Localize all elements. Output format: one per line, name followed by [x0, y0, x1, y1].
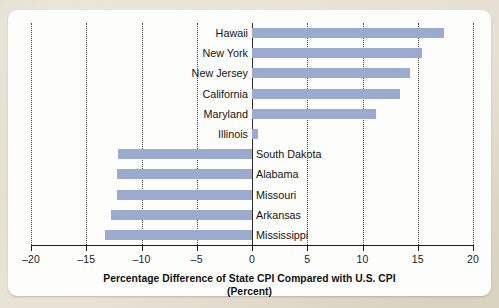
axis-tick	[473, 245, 474, 251]
bar-row[interactable]: Missouri	[31, 184, 473, 204]
category-label: South Dakota	[256, 146, 321, 162]
bar-row[interactable]: South Dakota	[31, 144, 473, 164]
bar[interactable]	[111, 210, 252, 220]
bar-chart: HawaiiNew YorkNew JerseyCaliforniaMaryla…	[8, 10, 491, 296]
axis-tick	[363, 245, 364, 251]
x-tick-label: –15	[77, 253, 95, 265]
axis-tick	[418, 245, 419, 251]
bar[interactable]	[252, 89, 400, 99]
bar[interactable]	[252, 109, 376, 119]
category-label: California	[202, 86, 248, 102]
bar-row[interactable]: New York	[31, 43, 473, 63]
bar[interactable]	[252, 129, 258, 139]
bar-row[interactable]: New Jersey	[31, 63, 473, 83]
plot-area: HawaiiNew YorkNew JerseyCaliforniaMaryla…	[31, 23, 473, 245]
bar-row[interactable]: Mississippi	[31, 225, 473, 245]
x-tick-label: –5	[191, 253, 203, 265]
bar-row[interactable]: Illinois	[31, 124, 473, 144]
chart-card: HawaiiNew YorkNew JerseyCaliforniaMaryla…	[8, 10, 491, 296]
category-label: Missouri	[256, 187, 296, 203]
category-label: Alabama	[256, 166, 299, 182]
x-tick-label: 15	[412, 253, 424, 265]
x-tick-label: –10	[132, 253, 150, 265]
bar[interactable]	[117, 169, 252, 179]
category-label: New York	[202, 45, 248, 61]
x-tick-label: –20	[22, 253, 40, 265]
bar[interactable]	[252, 68, 410, 78]
bar[interactable]	[252, 28, 444, 38]
bar-row[interactable]: California	[31, 84, 473, 104]
x-tick-label: 5	[304, 253, 310, 265]
category-label: Maryland	[204, 106, 248, 122]
axis-tick	[252, 245, 253, 251]
bar[interactable]	[252, 48, 422, 58]
bar-row[interactable]: Hawaii	[31, 23, 473, 43]
x-tick-label: 20	[467, 253, 479, 265]
category-label: Illinois	[218, 126, 248, 142]
bar[interactable]	[117, 190, 252, 200]
x-tick-label: 0	[249, 253, 255, 265]
axis-tick	[142, 245, 143, 251]
axis-tick	[307, 245, 308, 251]
axis-tick	[197, 245, 198, 251]
axis-tick	[86, 245, 87, 251]
bar-row[interactable]: Maryland	[31, 104, 473, 124]
page-background: HawaiiNew YorkNew JerseyCaliforniaMaryla…	[0, 0, 499, 308]
caption-line-1: Percentage Difference of State CPI Compa…	[103, 273, 395, 284]
category-label: New Jersey	[192, 65, 248, 81]
gridline	[473, 23, 474, 245]
bar-row[interactable]: Arkansas	[31, 205, 473, 225]
category-label: Mississippi	[256, 227, 308, 243]
chart-caption: Percentage Difference of State CPI Compa…	[8, 272, 491, 298]
x-tick-label: 10	[356, 253, 368, 265]
category-label: Hawaii	[216, 25, 248, 41]
bar[interactable]	[118, 149, 252, 159]
caption-line-2: (Percent)	[8, 285, 491, 298]
bar[interactable]	[105, 230, 252, 240]
category-label: Arkansas	[256, 207, 301, 223]
axis-tick	[31, 245, 32, 251]
bar-row[interactable]: Alabama	[31, 164, 473, 184]
